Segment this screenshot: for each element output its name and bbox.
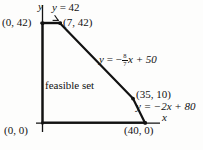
constraint-rhs-42: 42: [69, 1, 80, 13]
vertex-label-top-left: (0, 42): [2, 17, 31, 28]
vertex-label-top-right: (7, 42): [63, 17, 92, 28]
constraint-lhs-y: y: [52, 1, 57, 13]
lower-slant-lhs-y: y: [136, 100, 141, 112]
upper-slant-equals-minus: = −: [107, 53, 122, 65]
constraint-equals-sign: =: [60, 1, 69, 13]
upper-slant-fraction: 87: [122, 53, 127, 67]
feasible-set-label: feasible set: [45, 80, 94, 91]
x-axis-label: x: [162, 112, 167, 123]
vertex-dot-top-right: [58, 21, 62, 25]
upper-slant-lhs-y: y: [99, 53, 104, 65]
feasible-set-diagram: y x y = 42 (0, 42) (7, 42) y = −87x + 50…: [0, 0, 203, 150]
y-axis-label: y: [38, 1, 43, 12]
vertex-dot-kink: [131, 97, 135, 101]
vertex-label-kink: (35, 10): [136, 89, 171, 100]
vertex-dot-top-left: [41, 21, 45, 25]
constraint-label-y-equals-42: y = 42: [52, 2, 80, 13]
vertex-label-origin: (0, 0): [4, 125, 28, 136]
leader-line-y-equals-42: [55, 15, 59, 20]
constraint-label-lower-slant: y = −2x + 80: [136, 101, 196, 112]
vertex-label-x-intercept: (40, 0): [124, 125, 153, 136]
lower-slant-rhs: = −2x + 80: [144, 100, 196, 112]
upper-slant-tail: x + 50: [128, 53, 157, 65]
fraction-numerator: 8: [122, 53, 127, 60]
fraction-denominator: 7: [122, 60, 127, 68]
feasible-region-fill: [43, 23, 146, 123]
constraint-label-upper-slant: y = −87x + 50: [99, 53, 157, 67]
